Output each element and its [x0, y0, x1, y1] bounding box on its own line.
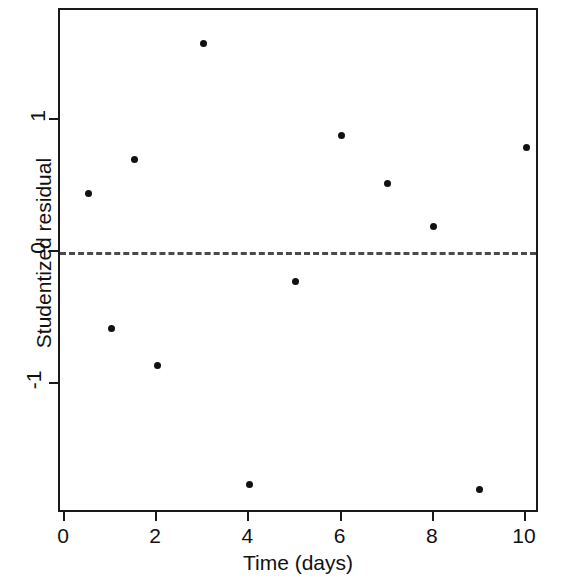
plot-frame [58, 8, 538, 512]
x-axis-tick [63, 512, 65, 521]
x-axis-label: Time (days) [58, 551, 538, 575]
x-axis-tick [524, 512, 526, 521]
data-point [292, 278, 299, 285]
data-point [523, 144, 530, 151]
zero-reference-line [60, 252, 536, 255]
x-axis-tick-label: 10 [494, 524, 554, 548]
data-point [154, 362, 161, 369]
x-axis-tick-label: 4 [217, 524, 277, 548]
y-axis-label: Studentized residual [32, 103, 56, 403]
data-point [200, 40, 207, 47]
data-point [430, 223, 437, 230]
data-point [108, 325, 115, 332]
data-point [476, 486, 483, 493]
data-point [384, 180, 391, 187]
x-axis-tick [247, 512, 249, 521]
data-point [338, 132, 345, 139]
x-axis-tick-label: 2 [125, 524, 185, 548]
data-point [246, 481, 253, 488]
x-axis-tick [155, 512, 157, 521]
data-point [85, 190, 92, 197]
scatter-plot-figure: 024681010-1 Time (days) Studentized resi… [0, 0, 561, 581]
x-axis-tick [432, 512, 434, 521]
x-axis-tick-label: 8 [402, 524, 462, 548]
data-point [131, 156, 138, 163]
x-axis-tick-label: 6 [310, 524, 370, 548]
x-axis-tick [340, 512, 342, 521]
plot-area [60, 10, 536, 510]
x-axis-tick-label: 0 [33, 524, 93, 548]
